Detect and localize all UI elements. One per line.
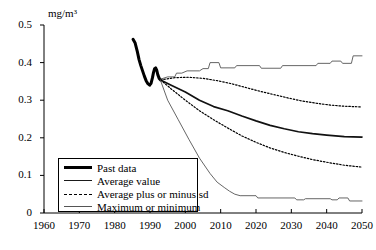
x-tick-label: 2050 [342, 220, 376, 231]
y-tick-label: 0.5 [6, 19, 32, 30]
y-tick-label: 0.4 [6, 57, 32, 68]
legend-item-past-data: Past data [59, 161, 197, 174]
x-tick-label: 1970 [59, 220, 99, 231]
series-line-maximum [161, 56, 362, 79]
series-line-average-minus-sd [161, 80, 362, 167]
chart-container: mg/m³ 00.10.20.30.40.5 19601970198019902… [0, 0, 376, 250]
legend-label-plus-minus-sd: Average plus or minus sd [93, 188, 209, 200]
legend-label-average-value: Average value [93, 175, 160, 187]
legend-label-past-data: Past data [93, 162, 136, 174]
legend-item-max-min: Maximum or minimum [59, 200, 197, 213]
y-tick-label: 0.3 [6, 94, 32, 105]
x-tick-label: 2040 [307, 220, 347, 231]
y-axis-tick-marks [40, 25, 44, 213]
x-tick-label: 2000 [165, 220, 205, 231]
x-tick-label: 1960 [24, 220, 64, 231]
x-tick-label: 2030 [271, 220, 311, 231]
legend-line-plus-minus-sd-icon [63, 188, 93, 200]
y-tick-label: 0.1 [6, 169, 32, 180]
legend-label-max-min: Maximum or minimum [93, 201, 200, 213]
y-axis-unit-label: mg/m³ [48, 8, 77, 19]
x-tick-label: 2020 [236, 220, 276, 231]
legend-item-average-value: Average value [59, 174, 197, 187]
series-line-average-value [161, 80, 362, 137]
legend-line-average-value-icon [63, 175, 93, 187]
y-tick-label: 0 [6, 207, 32, 218]
x-tick-label: 2010 [201, 220, 241, 231]
legend-line-past-data-icon [63, 162, 93, 174]
x-tick-label: 1980 [95, 220, 135, 231]
x-tick-label: 1990 [130, 220, 170, 231]
series-line-past-data [133, 39, 161, 85]
legend-line-max-min-icon [63, 201, 93, 213]
y-tick-label: 0.2 [6, 132, 32, 143]
chart-legend: Past data Average value Average plus or … [58, 158, 198, 212]
series-line-average-plus-sd [161, 77, 362, 107]
legend-item-plus-minus-sd: Average plus or minus sd [59, 187, 197, 200]
